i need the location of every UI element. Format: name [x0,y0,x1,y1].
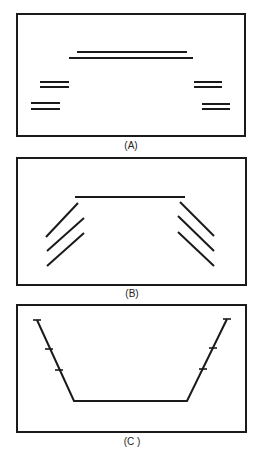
diagram-line [180,202,214,236]
panel-frame [17,305,246,432]
panel-frame [17,158,246,285]
panel-frame [17,14,245,136]
panel-b [17,158,246,285]
trapezoid-path [37,319,227,401]
caption-b: (B) [112,288,152,299]
figure-canvas [0,0,260,457]
panel-a [17,14,245,136]
diagram-line [46,203,78,237]
diagram-line [178,216,214,251]
panel-c [17,305,246,432]
diagram-line [47,233,84,266]
diagram-line [178,232,214,266]
caption-a: (A) [111,140,151,151]
caption-c: (C ) [112,436,152,447]
diagram-line [47,218,84,251]
